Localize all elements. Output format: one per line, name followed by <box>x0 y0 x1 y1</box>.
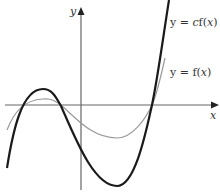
curve-cf <box>7 0 169 186</box>
graph-canvas <box>0 0 220 196</box>
curve-cf-label-part: f( <box>199 16 207 29</box>
y-axis-arrow-icon <box>78 7 85 15</box>
curve-cf-label-part: y = <box>170 16 192 29</box>
x-axis-label: x <box>210 110 216 121</box>
curve-cf-label-part: ) <box>213 16 217 29</box>
curve-f-label-part: ) <box>207 66 211 79</box>
curve-cf-label: y = cf(x) <box>170 17 218 28</box>
curve-f <box>7 58 165 138</box>
y-axis-label: y <box>70 6 76 17</box>
curve-f-label-part: y = f( <box>170 66 201 79</box>
x-axis-arrow-icon <box>211 102 219 109</box>
curve-f-label: y = f(x) <box>170 67 211 78</box>
